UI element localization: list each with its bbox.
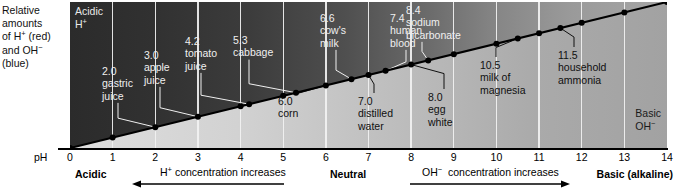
substance-label-line: 5.3 (233, 34, 273, 46)
acidic-corner-line2: H+ (75, 18, 87, 30)
acidic-corner-line1: Acidic (75, 5, 103, 17)
basic-corner-line1: Basic (635, 107, 661, 119)
x-tick-3: 3 (188, 151, 208, 163)
x-tick-8: 8 (401, 151, 421, 163)
substance-label-line: water (358, 120, 393, 132)
x-tick-1: 1 (103, 151, 123, 163)
ph-scale-figure: Relative amounts of H+ (red) and OH− (bl… (0, 0, 679, 192)
y-axis-caption: Relative amounts of H+ (red) and OH− (bl… (2, 4, 66, 70)
x-tick-2: 2 (145, 151, 165, 163)
substance-label-line: distilled (358, 107, 393, 119)
legend-basic: Basic (alkaline) (597, 168, 673, 180)
caption-line-1: Relative (2, 4, 66, 17)
substance-label-line: milk (320, 37, 346, 49)
substance-label-line: juice (185, 60, 217, 72)
x-tick-0: 0 (60, 151, 80, 163)
caption-line-3: of H+ (red) (2, 30, 66, 43)
x-tick-12: 12 (572, 151, 592, 163)
substance-label-line: sodium (406, 16, 461, 28)
substance-label-line: household (558, 61, 606, 73)
substance-label-sodium-bicarbonate: 8.4sodiumbicarbonate (406, 4, 461, 41)
substance-label-tomato-juice: 4.2tomatojuice (185, 35, 217, 72)
caption-line-5: (blue) (2, 57, 66, 70)
x-axis-title: pH (34, 151, 47, 163)
substance-label-line: cabbage (233, 46, 273, 58)
substance-label-gastric-juice: 2.0gastricjuice (102, 65, 133, 102)
substance-label-line: egg (428, 103, 453, 115)
gridline-ph-13 (624, 2, 625, 148)
substance-label-line: corn (278, 107, 298, 119)
substance-label-household-ammonia: 11.5householdammonia (558, 49, 606, 86)
x-axis-line (58, 148, 668, 150)
legend-neutral: Neutral (330, 168, 366, 180)
x-tick-7: 7 (359, 151, 379, 163)
oh-minus-arrow-icon (410, 179, 570, 189)
substance-label-line: 6.0 (278, 95, 298, 107)
substance-label-line: magnesia (480, 84, 526, 96)
substance-label-line: ammonia (558, 74, 606, 86)
substance-label-line: 2.0 (102, 65, 133, 77)
substance-label-line: 10.5 (480, 59, 526, 71)
caption-line-2: amounts (2, 17, 66, 30)
substance-label-line: cow's (320, 24, 346, 36)
substance-label-corn: 6.0corn (278, 95, 298, 120)
substance-label-line: white (428, 116, 453, 128)
substance-label-line: 4.2 (185, 35, 217, 47)
x-tick-10: 10 (486, 151, 506, 163)
basic-corner-line2: OH− (635, 120, 655, 132)
substance-label-line: 3.0 (144, 49, 170, 61)
legend-acidic: Acidic (75, 168, 107, 180)
substance-label-line: 7.0 (358, 95, 393, 107)
substance-label-egg-white: 8.0eggwhite (428, 91, 453, 128)
substance-label-line: tomato (185, 47, 217, 59)
acidic-corner-label: Acidic H+ (75, 5, 103, 30)
substance-label-line: 8.0 (428, 91, 453, 103)
substance-label-milk-of-magnesia: 10.5milk ofmagnesia (480, 59, 526, 96)
h-plus-legend-text: H+ concentration increases (160, 166, 286, 178)
gridline-ph-5 (283, 2, 284, 148)
oh-minus-legend-text: OH− concentration increases (422, 166, 559, 178)
x-tick-13: 13 (614, 151, 634, 163)
substance-label-distilled-water: 7.0distilledwater (358, 95, 393, 132)
substance-label-line: apple (144, 61, 170, 73)
gridline-ph-4 (240, 2, 241, 148)
substance-label-line: 6.6 (320, 12, 346, 24)
h-plus-arrow-icon (132, 179, 284, 189)
substance-label-line: juice (144, 74, 170, 86)
substance-label-line: bicarbonate (406, 29, 461, 41)
substance-label-cabbage: 5.3cabbage (233, 34, 273, 59)
substance-label-cow-s-milk: 6.6cow'smilk (320, 12, 346, 49)
ph-plot-panel: Acidic H+ Basic OH− 2.0gastricjuice3.0ap… (70, 2, 667, 148)
x-tick-6: 6 (316, 151, 336, 163)
substance-label-line: 8.4 (406, 4, 461, 16)
gridline-ph-3 (197, 2, 198, 148)
substance-label-line: juice (102, 90, 133, 102)
caption-line-4: and OH− (2, 44, 66, 57)
gridline-ph-11 (538, 2, 539, 148)
substance-label-line: gastric (102, 77, 133, 89)
x-tick-9: 9 (444, 151, 464, 163)
x-tick-5: 5 (273, 151, 293, 163)
x-tick-4: 4 (231, 151, 251, 163)
basic-corner-label: Basic OH− (635, 107, 661, 132)
x-tick-14: 14 (657, 151, 677, 163)
substance-label-apple-juice: 3.0applejuice (144, 49, 170, 86)
substance-label-line: 11.5 (558, 49, 606, 61)
x-tick-11: 11 (529, 151, 549, 163)
substance-label-line: milk of (480, 71, 526, 83)
